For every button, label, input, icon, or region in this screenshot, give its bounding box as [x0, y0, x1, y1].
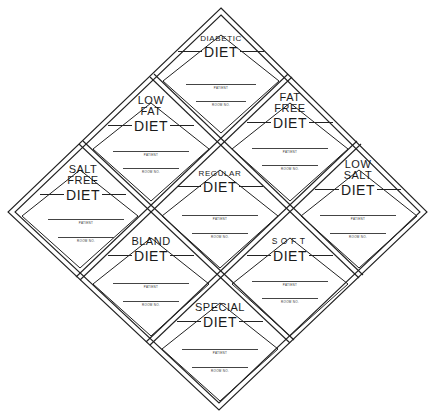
- room-field[interactable]: ROOM NO.: [58, 237, 114, 243]
- room-field[interactable]: ROOM NO.: [196, 101, 246, 107]
- label-title-line-2: SALT: [318, 170, 398, 181]
- patient-field[interactable]: PATIENT: [186, 84, 256, 90]
- label-title-line-2: FAT: [111, 106, 191, 117]
- label-low-fat: LOW FAT DIET: [111, 95, 191, 135]
- room-field[interactable]: ROOM NO.: [123, 168, 179, 174]
- label-special: SPECIAL DIET: [180, 302, 260, 331]
- patient-field[interactable]: PATIENT: [48, 219, 124, 225]
- label-regular: REGULAR DIET: [180, 169, 260, 196]
- room-field[interactable]: ROOM NO.: [330, 233, 386, 239]
- room-field[interactable]: ROOM NO.: [192, 233, 248, 239]
- diet-word: DIET: [66, 188, 100, 202]
- diet-word: DIET: [203, 180, 237, 194]
- diet-word: DIET: [204, 45, 238, 59]
- label-soft: SOFT DIET: [250, 236, 330, 265]
- patient-field[interactable]: PATIENT: [182, 215, 258, 221]
- label-title-line-2: FREE: [250, 103, 330, 114]
- patient-field[interactable]: PATIENT: [252, 281, 328, 287]
- label-salt-free: SALT FREE DIET: [43, 164, 123, 204]
- label-title: SPECIAL: [180, 302, 260, 313]
- diet-word: DIET: [273, 249, 307, 263]
- diet-word: DIET: [273, 116, 307, 130]
- diet-word: DIET: [134, 249, 168, 263]
- room-field[interactable]: ROOM NO.: [123, 301, 179, 307]
- label-title: REGULAR: [180, 169, 260, 178]
- label-title-line-2: FREE: [43, 175, 123, 186]
- label-diabetic: DIABETIC DIET: [181, 34, 261, 61]
- diet-word: DIET: [341, 183, 375, 197]
- label-bland: BLAND DIET: [111, 236, 191, 265]
- label-title: DIABETIC: [181, 34, 261, 43]
- patient-field[interactable]: PATIENT: [182, 349, 258, 355]
- room-field[interactable]: ROOM NO.: [262, 165, 318, 171]
- patient-field[interactable]: PATIENT: [252, 148, 328, 154]
- diet-word: DIET: [203, 315, 237, 329]
- diet-word: DIET: [134, 119, 168, 133]
- patient-field[interactable]: PATIENT: [320, 215, 396, 221]
- label-fat-free: FAT FREE DIET: [250, 92, 330, 132]
- room-field[interactable]: ROOM NO.: [192, 367, 248, 373]
- label-title: BLAND: [111, 236, 191, 247]
- label-low-salt: LOW SALT DIET: [318, 159, 398, 199]
- patient-field[interactable]: PATIENT: [113, 283, 189, 289]
- label-title: SOFT: [250, 236, 330, 247]
- room-field[interactable]: ROOM NO.: [262, 298, 318, 304]
- patient-field[interactable]: PATIENT: [113, 151, 189, 157]
